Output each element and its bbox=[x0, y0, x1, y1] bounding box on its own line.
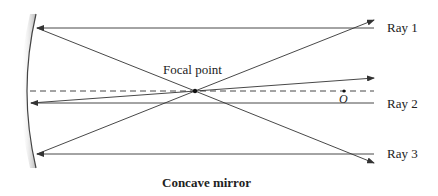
ray-2-reflected bbox=[31, 78, 374, 103]
ray-1-reflected-line bbox=[37, 28, 195, 91]
diagram-caption: Concave mirror bbox=[162, 175, 251, 191]
center-o-label: O bbox=[339, 92, 348, 107]
ray-2-label: Ray 2 bbox=[387, 96, 418, 112]
ray-3-label: Ray 3 bbox=[387, 146, 418, 162]
focal-point-label: Focal point bbox=[163, 62, 222, 78]
focal-point-dot bbox=[193, 89, 197, 93]
ray-diagram bbox=[0, 0, 438, 196]
ray-1-label: Ray 1 bbox=[387, 20, 418, 36]
ray-1-reflected bbox=[37, 20, 374, 28]
